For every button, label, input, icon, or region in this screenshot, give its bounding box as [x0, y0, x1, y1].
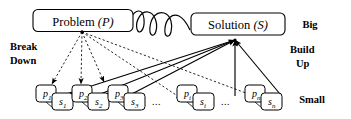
leaf-pair-i[interactable]: pi si — [177, 85, 214, 110]
leaf-pair-1[interactable]: p1 s1 — [36, 85, 73, 110]
solution-node[interactable]: Solution (S) — [191, 13, 285, 35]
label-build: Build — [290, 44, 315, 55]
leaf-pair-2[interactable]: p2 s2 — [72, 85, 109, 110]
label-small: Small — [299, 94, 325, 105]
leaf-ellipsis-2: ... — [221, 96, 230, 107]
problem-node-label: Problem (P) — [52, 15, 113, 29]
leaf-pair-3[interactable]: p3 s3 — [108, 85, 145, 110]
label-break-down: Break Down — [10, 41, 37, 66]
leaf-pair-n[interactable]: pn sn — [245, 85, 282, 110]
diagram-canvas: Problem (P) Solution (S) — [0, 0, 351, 119]
label-down: Down — [10, 55, 36, 66]
break-down-edge-1 — [52, 32, 82, 84]
problem-node[interactable]: Problem (P) — [33, 10, 133, 32]
break-down-edge-2 — [81, 32, 82, 84]
wavy-connector — [131, 11, 190, 36]
label-up: Up — [296, 58, 310, 69]
decomposition-diagram: Problem (P) Solution (S) — [0, 0, 351, 119]
label-break: Break — [10, 41, 37, 52]
solution-node-label: Solution (S) — [208, 18, 268, 32]
leaf-ellipsis-1: ... — [152, 96, 161, 107]
label-build-up: Build Up — [290, 44, 315, 69]
label-big: Big — [302, 19, 318, 30]
